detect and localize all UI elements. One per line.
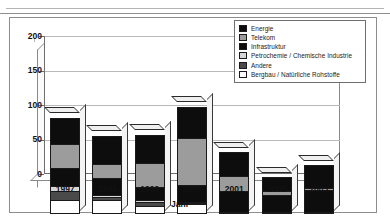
bar-segment[interactable] xyxy=(219,152,249,178)
legend-item-label: Telekom xyxy=(251,34,275,41)
bar-top-face xyxy=(298,155,334,161)
legend-swatch-icon xyxy=(239,71,247,78)
legend-item[interactable]: Telekom xyxy=(239,33,361,42)
legend-swatch-icon xyxy=(239,25,247,32)
x-tick-label-2001: 2001 xyxy=(211,184,257,194)
bar-top-face xyxy=(171,96,207,102)
legend-swatch-icon xyxy=(239,43,247,50)
x-tick-label-2002: 2002 xyxy=(254,184,300,194)
x-tick-label-1997: 1997 xyxy=(42,184,88,194)
x-tick-label-2000: 2000 xyxy=(169,184,215,194)
y-axis-line xyxy=(44,36,45,174)
legend-swatch-icon xyxy=(239,62,247,69)
bar-segment[interactable] xyxy=(304,212,334,214)
y-tick-label-200: 200 xyxy=(16,32,42,41)
legend-item-label: Infrastruktur xyxy=(251,43,286,50)
x-axis-title: Jahr xyxy=(10,199,350,209)
header-rule-second xyxy=(0,13,390,14)
bar-segment[interactable] xyxy=(92,164,122,179)
legend-item-label: Andere xyxy=(251,62,272,69)
bar-segment[interactable] xyxy=(50,144,80,169)
bar-top-face xyxy=(44,107,80,113)
y-tick-label-150: 150 xyxy=(16,66,42,75)
bar-segment[interactable] xyxy=(177,138,207,186)
y-axis-labels: 050100150200 xyxy=(10,18,42,214)
chart-plot-area: 050100150200 199719981999200020012002200… xyxy=(10,18,378,214)
legend-item[interactable]: Bergbau / Natürliche Rohstoffe xyxy=(239,70,361,79)
bar-segment[interactable] xyxy=(262,212,292,214)
bar-top-face xyxy=(86,125,122,131)
legend-item[interactable]: Andere xyxy=(239,61,361,70)
legend-item-label: Petrochemie / Chemische Industrie xyxy=(251,52,352,59)
legend-item-label: Energie xyxy=(251,25,273,32)
legend-item[interactable]: Petrochemie / Chemische Industrie xyxy=(239,52,361,61)
chart-legend: EnergieTelekomInfrastrukturPetrochemie /… xyxy=(234,20,366,83)
x-tick-label-1999: 1999 xyxy=(127,184,173,194)
bar-top-face xyxy=(129,124,165,130)
x-tick-label-2003: 2003 xyxy=(296,184,342,194)
legend-item[interactable]: Energie xyxy=(239,24,361,33)
figure-frame: 050100150200 199719981999200020012002200… xyxy=(9,17,377,213)
header-rule-top xyxy=(6,8,384,9)
bar-side-face xyxy=(122,122,128,211)
y-tick-label-100: 100 xyxy=(16,101,42,110)
legend-item-label: Bergbau / Natürliche Rohstoffe xyxy=(251,71,340,78)
legend-swatch-icon xyxy=(239,52,247,59)
bar-side-face xyxy=(165,121,171,211)
legend-swatch-icon xyxy=(239,34,247,41)
bar-segment[interactable] xyxy=(50,118,80,146)
y-tick-label-50: 50 xyxy=(16,135,42,144)
legend-item[interactable]: Infrastruktur xyxy=(239,42,361,51)
bar-segment[interactable] xyxy=(219,212,249,214)
bar-segment[interactable] xyxy=(135,135,165,164)
bar-top-face xyxy=(213,142,249,148)
header-ghost-text xyxy=(28,0,358,8)
bar-segment[interactable] xyxy=(92,136,122,165)
bar-segment[interactable] xyxy=(177,107,207,139)
page-header xyxy=(0,0,390,16)
bar-side-face xyxy=(80,104,86,211)
y-tick-label-0: 0 xyxy=(16,170,42,179)
bar-top-face xyxy=(256,167,292,173)
x-tick-label-1998: 1998 xyxy=(84,184,130,194)
